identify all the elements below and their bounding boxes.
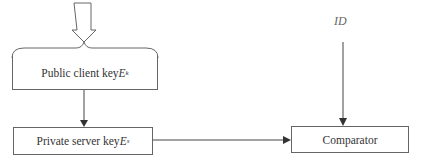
arrowhead-down-icon — [339, 118, 347, 126]
public-key-var: E — [119, 67, 126, 79]
public-key-sub: k — [126, 69, 129, 77]
comparator-label: Comparator — [323, 134, 378, 146]
private-key-var: E — [120, 135, 127, 147]
hollow-input-arrow-icon — [72, 3, 96, 42]
public-key-label: Public client key — [41, 67, 118, 79]
private-server-key-box: Private server key Es — [13, 127, 153, 155]
private-key-label: Private server key — [37, 135, 120, 147]
arrowhead-right-icon — [283, 136, 291, 144]
comparator-box: Comparator — [291, 126, 409, 153]
id-input-label: ID — [334, 14, 347, 29]
private-key-sub: s — [127, 137, 130, 145]
public-client-key-box: Public client key Ek — [12, 56, 158, 90]
arrowhead-down-icon — [80, 120, 88, 127]
